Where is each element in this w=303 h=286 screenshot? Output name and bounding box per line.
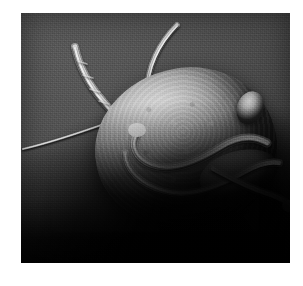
page-canvas bbox=[0, 0, 303, 286]
micrograph-image bbox=[21, 13, 290, 263]
cast-shadow bbox=[21, 13, 290, 263]
